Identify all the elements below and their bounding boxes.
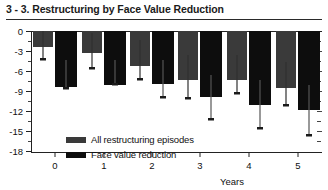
legend-label: All restructuring episodes <box>91 135 194 145</box>
y-tick-label: -6 <box>15 66 23 77</box>
chart-legend: All restructuring episodes Face value re… <box>66 133 216 161</box>
error-bar-cap <box>63 87 69 90</box>
y-tick-label: -9 <box>15 86 23 97</box>
x-axis-title: Years <box>220 176 244 187</box>
legend-item-face-value-reduction: Face value reduction <box>66 148 216 161</box>
error-bar-cap <box>112 83 118 86</box>
x-tick-label: 3 <box>197 160 202 171</box>
y-tick-label: -3 <box>15 46 23 57</box>
x-tick-labels: 0 1 2 3 4 5 <box>52 160 300 171</box>
legend-item-all-restructuring: All restructuring episodes <box>66 133 216 146</box>
y-tick-labels: 0 -3 -6 -9 -12 -15 -18 <box>9 26 23 157</box>
bar-group-2 <box>130 31 174 99</box>
legend-swatch-icon <box>66 137 86 143</box>
error-bar-cap <box>306 134 312 137</box>
error-bar-cap <box>234 92 240 95</box>
y-tick-label: -15 <box>9 126 23 137</box>
y-tick-label: -12 <box>9 106 23 117</box>
x-tick-label: 5 <box>295 160 300 171</box>
error-bar-cap <box>283 104 289 107</box>
bar-group-3 <box>178 31 222 121</box>
error-bar-cap <box>40 58 46 61</box>
x-tick-label: 1 <box>101 160 106 171</box>
bar-group-0 <box>33 31 77 90</box>
legend-label: Face value reduction <box>91 150 176 160</box>
chart-plot-area: 0 -3 -6 -9 -12 -15 -18 <box>0 0 328 190</box>
x-tick-label: 2 <box>149 160 154 171</box>
bar-group-1 <box>82 31 126 86</box>
bar-group-4 <box>227 31 271 130</box>
error-bar-cap <box>208 118 214 121</box>
y-tick-label: -18 <box>9 146 23 157</box>
bar-group-5 <box>276 31 320 137</box>
error-bar-cap <box>257 127 263 130</box>
error-bar-cap <box>137 78 143 81</box>
x-tick-label: 4 <box>246 160 251 171</box>
error-bar-cap <box>89 67 95 70</box>
error-bar-cap <box>185 97 191 100</box>
legend-swatch-icon <box>66 152 86 158</box>
y-axis-ticks <box>26 32 31 152</box>
x-tick-label: 0 <box>52 160 57 171</box>
y-tick-label: 0 <box>18 26 23 37</box>
error-bar-cap <box>160 96 166 99</box>
figure-container: 3 - 3. Restructuring by Face Value Reduc… <box>0 0 328 190</box>
